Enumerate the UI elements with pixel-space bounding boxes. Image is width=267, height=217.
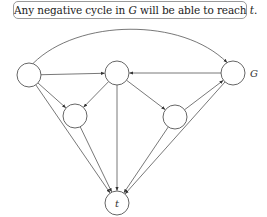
graph-diagram: t G xyxy=(0,0,267,217)
edge-lr-to-t xyxy=(124,127,168,193)
node-l xyxy=(17,63,41,87)
node-m xyxy=(105,61,129,85)
edge-m-to-lr xyxy=(127,80,165,109)
edge-l-to-r xyxy=(33,29,227,63)
edge-l-to-t xyxy=(36,85,110,193)
edges-layer xyxy=(33,29,227,193)
edge-ll-to-t xyxy=(80,127,111,192)
edge-m-to-ll xyxy=(84,82,109,107)
node-ll xyxy=(63,104,87,128)
edge-l-to-m xyxy=(41,73,105,74)
edge-l-to-ll xyxy=(38,83,66,108)
node-r xyxy=(221,61,245,85)
edge-r-to-t xyxy=(125,82,225,194)
node-lr xyxy=(163,105,187,129)
graph-label: G xyxy=(250,68,258,79)
